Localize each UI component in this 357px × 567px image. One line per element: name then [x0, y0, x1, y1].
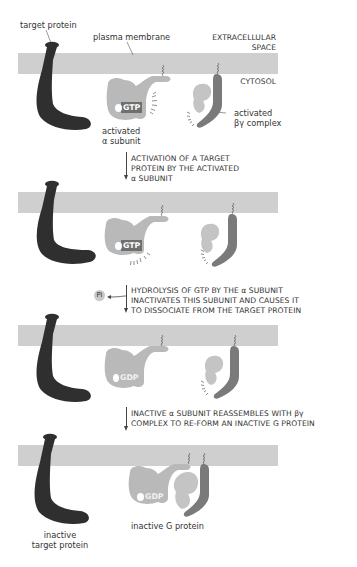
- label-inactive-g-protein: inactive G protein: [131, 521, 204, 531]
- label-inactive-target-protein: inactive target protein: [28, 530, 92, 550]
- proteins-panel-4: [0, 0, 357, 567]
- label-inactive: inactive: [28, 530, 92, 540]
- label-target-protein-bottom: target protein: [28, 540, 92, 550]
- target-protein-shape: [35, 434, 89, 524]
- gdp-badge-4: GDP: [143, 491, 166, 502]
- beta-subunit-shape: [174, 472, 198, 509]
- nucleotide-pocket-4: [137, 493, 144, 501]
